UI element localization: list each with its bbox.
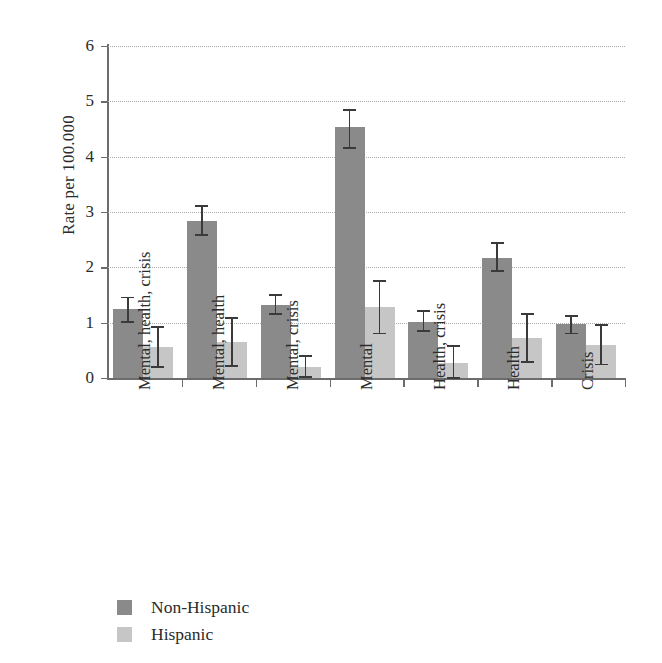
error-bar-cap-upper [195,205,208,207]
y-tick-label: 0 [60,369,94,386]
y-tick-mark [101,157,108,158]
error-bar-cap-lower [121,321,134,323]
error-bar-stem [201,205,203,234]
x-axis-label-mental-crisis: Mental, crisis [283,180,303,390]
error-bar-stem [526,313,528,362]
error-bar-cap-lower [491,270,504,272]
legend-label-hispanic: Hispanic [151,626,213,644]
y-axis-title: Rate per 100.000 [46,5,92,345]
legend-label-non-hispanic: Non-Hispanic [151,599,249,617]
gridline [108,101,625,102]
error-bar-stem [349,109,351,147]
legend-swatch-icon-non-hispanic [117,600,132,615]
error-bar-cap-lower [269,313,282,315]
error-bar-stem [496,242,498,270]
y-tick-label: 4 [60,148,94,165]
x-axis-label-mental-health: Mental, health [209,180,229,390]
y-tick-mark [101,46,108,47]
error-bar-stem [127,297,129,321]
error-bar-cap-lower [565,333,578,335]
error-bar-stem [423,310,425,330]
gridline [108,157,625,158]
y-tick-label: 6 [60,37,94,54]
chart-legend: Non-Hispanic Hispanic [117,594,249,648]
y-tick-mark [101,101,108,102]
x-axis-label-crisis: Crisis [578,180,598,390]
y-tick-label: 2 [60,258,94,275]
error-bar-cap-lower [417,330,430,332]
y-tick-label: 3 [60,203,94,220]
gridline [108,46,625,47]
y-tick-mark [101,323,108,324]
legend-item-non-hispanic: Non-Hispanic [117,594,249,621]
x-tick-mark [182,379,183,387]
legend-swatch-icon-hispanic [117,627,132,642]
x-tick-mark [551,379,552,387]
error-bar-stem [157,326,159,366]
y-tick-mark [101,267,108,268]
x-tick-mark [625,379,626,387]
error-bar-cap-upper [269,294,282,296]
error-bar-stem [570,315,572,333]
legend-item-hispanic: Hispanic [117,621,249,648]
error-bar-stem [453,345,455,377]
x-axis-label-mental-health-crisis: Mental, health, crisis [135,180,155,390]
x-tick-mark [403,379,404,387]
error-bar-cap-upper [343,109,356,111]
x-axis-label-mental: Mental [357,180,377,390]
error-bar-cap-upper [491,242,504,244]
error-bar-stem [231,317,233,365]
x-axis-label-health-crisis: Health, crisis [430,180,450,390]
y-tick-label: 5 [60,92,94,109]
error-bar-cap-upper [565,315,578,317]
error-bar-stem [600,324,602,363]
error-bar-cap-upper [417,310,430,312]
y-tick-label: 1 [60,314,94,331]
x-axis-label-health: Health [504,180,524,390]
x-tick-mark [256,379,257,387]
error-bar-stem [305,355,307,377]
y-tick-mark [101,378,108,379]
bar-chart: Rate per 100.000 0123456 Mental, health,… [0,0,662,663]
error-bar-cap-lower [343,147,356,149]
error-bar-stem [379,280,381,333]
error-bar-cap-upper [121,297,134,299]
x-tick-mark [477,379,478,387]
y-tick-mark [101,212,108,213]
error-bar-cap-lower [195,234,208,236]
x-tick-mark [330,379,331,387]
error-bar-stem [275,294,277,313]
